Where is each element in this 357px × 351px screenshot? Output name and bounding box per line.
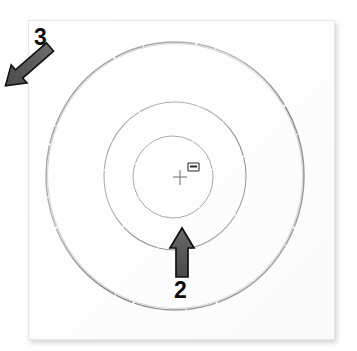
figure-root: 3 2: [0, 0, 357, 351]
callout-label-2: 2: [174, 279, 186, 302]
callout-label-3: 3: [34, 26, 46, 49]
